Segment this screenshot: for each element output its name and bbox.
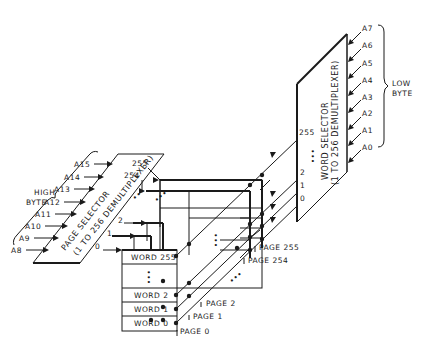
- high-byte-label-1: HIGH: [34, 188, 55, 197]
- page-depth-ellipsis: •••: [228, 269, 245, 285]
- word-ellipsis: •••: [144, 270, 153, 285]
- svg-text:A6: A6: [362, 41, 373, 50]
- page-output-254: 254: [124, 171, 140, 180]
- word-output-2: 2: [300, 168, 305, 177]
- word-output-255: 255: [299, 128, 315, 137]
- svg-text:A7: A7: [362, 24, 373, 33]
- input-a0: A0: [348, 143, 373, 163]
- low-byte-inputs: A7 A6 A5 A4 A3 A2 A1 A0 LOW BYTE: [348, 24, 413, 163]
- page-output-0: 0: [95, 242, 100, 251]
- word-selector-title: WORD SELECTOR: [321, 102, 330, 180]
- svg-text:A2: A2: [362, 109, 373, 118]
- svg-text:A0: A0: [362, 143, 373, 152]
- page-254-label: PAGE 254: [248, 256, 288, 265]
- word-255-cell: WORD 255: [131, 253, 176, 262]
- memory-addressing-diagram: WORD SELECTOR (1 TO 256 DEMULTIPLEXER) 2…: [0, 0, 424, 352]
- low-byte-label-1: LOW: [392, 79, 411, 88]
- page-output-255: 255: [132, 159, 148, 168]
- svg-text:A1: A1: [362, 126, 373, 135]
- word-selector-subtitle: (1 TO 256 DEMULTIPLEXER): [331, 60, 340, 185]
- word-output-ellipsis-top: •••: [308, 149, 317, 164]
- svg-text:A5: A5: [362, 59, 373, 68]
- svg-text:A15: A15: [74, 160, 90, 169]
- word-2-cell: WORD 2: [134, 291, 168, 300]
- word-output-1: 1: [300, 181, 305, 190]
- page-255-label: PAGE 255: [259, 243, 299, 252]
- svg-text:A8: A8: [11, 246, 22, 255]
- page-2-label: PAGE 2: [206, 299, 236, 308]
- svg-text:A4: A4: [362, 76, 373, 85]
- low-byte-brace: [378, 25, 388, 147]
- page-output-1: 1: [107, 229, 112, 238]
- svg-text:A3: A3: [362, 93, 373, 102]
- word-select-lines: [176, 140, 297, 323]
- word-selector: WORD SELECTOR (1 TO 256 DEMULTIPLEXER) 2…: [297, 34, 347, 222]
- page-stack-ellipsis: •••: [211, 233, 220, 248]
- word-output-0: 0: [300, 194, 305, 203]
- high-byte-label-2: BYTE: [26, 198, 47, 207]
- low-byte-label-2: BYTE: [392, 89, 413, 98]
- page-output-2: 2: [118, 216, 123, 225]
- page-0-label: PAGE 0: [180, 327, 210, 336]
- svg-text:A9: A9: [19, 234, 30, 243]
- page-1-label: PAGE 1: [193, 312, 223, 321]
